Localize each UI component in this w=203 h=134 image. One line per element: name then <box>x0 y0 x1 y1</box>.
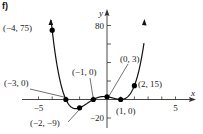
x-axis-label: x <box>190 88 195 98</box>
point-label: (0, 3) <box>120 54 140 64</box>
data-point <box>118 97 123 102</box>
data-point <box>77 105 82 110</box>
data-point <box>132 83 137 88</box>
point-label: (−4, 75) <box>3 23 32 33</box>
leader-line <box>68 110 79 122</box>
y-tick-label: −20 <box>90 113 105 123</box>
x-tick-label: −5 <box>34 103 44 113</box>
y-axis-label: y <box>98 8 103 18</box>
point-label: (−2, −9) <box>30 118 60 128</box>
axes: −5580−20xy <box>22 8 196 128</box>
leader-line <box>90 78 93 97</box>
data-point <box>91 97 96 102</box>
point-label: (−3, 0) <box>4 78 29 88</box>
polynomial-graph: f) −5580−20xy (−4, 75)(−3, 0)(−2, −9)(−1… <box>0 0 203 134</box>
leader-line <box>30 89 64 97</box>
point-label: (1, 0) <box>116 106 136 116</box>
data-point <box>50 28 55 33</box>
curve-arrow-right-icon <box>142 19 147 26</box>
y-axis-arrow-icon <box>105 9 110 16</box>
function-curve <box>51 20 144 109</box>
y-tick-label: 80 <box>95 21 105 31</box>
leader-line <box>109 64 128 96</box>
part-label: f) <box>2 1 8 11</box>
point-label: (2, 15) <box>138 79 162 89</box>
x-tick-label: 5 <box>173 103 178 113</box>
data-point <box>63 97 68 102</box>
data-point <box>104 94 109 99</box>
curve-arrow-left-icon <box>49 19 54 25</box>
point-label: (−1, 0) <box>72 67 97 77</box>
x-axis-arrow-icon <box>189 97 196 102</box>
